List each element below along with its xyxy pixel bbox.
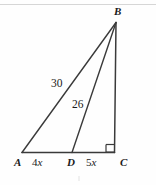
segment-label-AD: 4x bbox=[32, 157, 42, 168]
geometry-figure: A B C D 4x 5x 30 26 bbox=[0, 0, 156, 185]
vertex-label-A: A bbox=[14, 157, 21, 168]
scan-artifact-smudge bbox=[78, 176, 80, 181]
vertex-label-B: B bbox=[114, 6, 121, 17]
segment-cevian-DB bbox=[72, 23, 116, 153]
length-label-DB: 26 bbox=[72, 99, 84, 111]
vertex-label-D: D bbox=[67, 157, 75, 168]
right-angle-mark-C-icon bbox=[106, 145, 114, 153]
figure-drawing bbox=[0, 0, 156, 185]
vertex-label-C: C bbox=[120, 157, 127, 168]
segment-label-DC: 5x bbox=[86, 157, 96, 168]
length-label-AB: 30 bbox=[51, 78, 63, 90]
segment-hypotenuse-AB bbox=[22, 23, 116, 153]
segment-label-AD-variable: x bbox=[38, 156, 43, 168]
segment-label-DC-variable: x bbox=[92, 156, 97, 168]
segment-leg-BC bbox=[115, 23, 117, 153]
